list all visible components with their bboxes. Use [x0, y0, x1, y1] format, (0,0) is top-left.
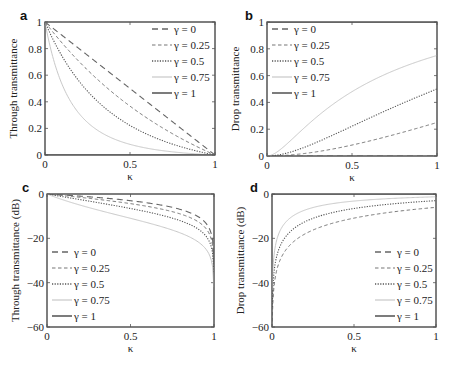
y-tick-label: 0: [259, 150, 265, 162]
x-tick-label: 0.5: [345, 159, 359, 171]
y-tick-label: 0.8: [28, 43, 42, 55]
legend-entry: γ = 0.5: [73, 278, 105, 290]
x-tick-label: 0: [264, 159, 270, 171]
legend-entry: γ = 0: [73, 246, 97, 258]
legend-entry: γ = 1: [173, 87, 196, 99]
y-tick-label: 0.2: [250, 123, 264, 135]
x-axis-label: κ: [349, 171, 355, 183]
x-tick-label: 1: [212, 158, 218, 170]
y-tick-label: 1: [37, 16, 43, 28]
x-tick-label: 1: [211, 330, 217, 342]
y-tick-label: 0: [39, 188, 45, 200]
legend-entry: γ = 1: [293, 87, 316, 99]
legend-entry: γ = 0.25: [396, 262, 433, 274]
y-tick-label: 0.4: [28, 96, 42, 108]
y-tick-label: 0.6: [28, 69, 42, 81]
legend-entry: γ = 0: [293, 23, 317, 35]
panel-b-drop-transmittance: 00.5100.20.40.60.81κDrop transmittancebγ…: [229, 8, 440, 183]
legend-entry: γ = 0.25: [73, 262, 110, 274]
legend-entry: γ = 0.25: [293, 39, 330, 51]
legend-entry: γ = 0.25: [173, 39, 210, 51]
y-tick-label: −60: [252, 321, 270, 333]
y-tick-label: −60: [27, 321, 45, 333]
legend-entry: γ = 0.75: [293, 71, 330, 83]
x-tick-label: 0.5: [123, 158, 137, 170]
y-axis-label: Drop transmittance (dB): [234, 206, 247, 314]
x-tick-label: 0: [269, 330, 275, 342]
legend-entry: γ = 1: [73, 310, 96, 322]
x-tick-label: 0: [44, 330, 50, 342]
legend-entry: γ = 0: [173, 23, 197, 35]
panel-c-through-transmittance-db: 00.51−60−40−200κThrough transmittance (d…: [9, 180, 217, 354]
y-tick-label: 1: [259, 16, 265, 28]
x-tick-label: 0.5: [347, 330, 361, 342]
x-tick-label: 1: [434, 159, 440, 171]
legend-entry: γ = 0.5: [396, 278, 428, 290]
y-axis-label: Through transmittance: [7, 38, 19, 138]
y-tick-label: 0.4: [250, 96, 264, 108]
panel-letter: c: [22, 180, 29, 195]
y-tick-label: 0.6: [250, 70, 264, 82]
legend-entry: γ = 1: [396, 310, 419, 322]
legend-entry: γ = 0.5: [173, 55, 205, 67]
y-tick-label: −40: [252, 277, 270, 289]
legend-entry: γ = 0.75: [396, 294, 433, 306]
panel-letter: d: [250, 180, 258, 195]
x-axis-label: κ: [127, 170, 133, 182]
y-axis-label: Through transmittance (dB): [9, 199, 22, 322]
figure-canvas: 00.5100.20.40.60.81κThrough transmittanc…: [0, 0, 455, 365]
y-tick-label: 0: [264, 188, 270, 200]
y-tick-label: −20: [252, 232, 270, 244]
panel-letter: b: [245, 8, 253, 23]
legend-entry: γ = 0: [396, 246, 420, 258]
y-tick-label: −20: [27, 232, 45, 244]
legend-entry: γ = 0.75: [73, 294, 110, 306]
y-axis-label: Drop transmittance: [229, 47, 241, 132]
legend-entry: γ = 0.5: [293, 55, 325, 67]
y-tick-label: 0.2: [28, 122, 42, 134]
panel-letter: a: [20, 8, 28, 23]
x-axis-label: κ: [128, 342, 134, 354]
y-tick-label: 0.8: [250, 43, 264, 55]
y-tick-label: 0: [37, 149, 43, 161]
panel-d-drop-transmittance-db: 00.51−60−40−200κDrop transmittance (dB)d…: [234, 180, 439, 354]
x-axis-label: κ: [351, 342, 357, 354]
plot-area: [47, 194, 214, 327]
x-tick-label: 0.5: [124, 330, 138, 342]
panel-a-through-transmittance: 00.5100.20.40.60.81κThrough transmittanc…: [7, 8, 218, 182]
plot-area: [267, 22, 437, 156]
x-tick-label: 1: [433, 330, 439, 342]
legend-entry: γ = 0.75: [173, 71, 210, 83]
y-tick-label: −40: [27, 277, 45, 289]
x-tick-label: 0: [42, 158, 48, 170]
